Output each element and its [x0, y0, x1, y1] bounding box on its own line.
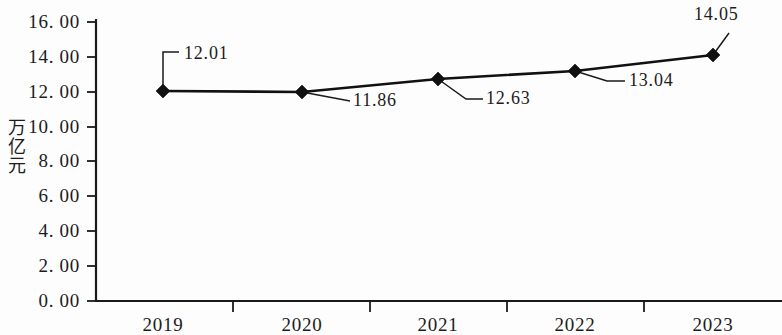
x-tick-label-2020: 2020	[262, 314, 342, 335]
y-tick-label-2: 2. 00	[16, 255, 80, 277]
data-point-2021	[431, 72, 445, 86]
data-label-2020: 11.86	[353, 90, 397, 111]
data-point-2022	[568, 64, 582, 78]
y-tick-marks	[87, 22, 96, 301]
x-tick-label-2019: 2019	[123, 314, 203, 335]
line-chart: 万亿元 16. 00 14. 00 12. 00 10. 00 8. 00 6.…	[0, 0, 782, 335]
y-tick-label-12: 12. 00	[16, 81, 80, 103]
x-tick-label-2023: 2023	[673, 314, 753, 335]
leader-2020	[302, 92, 350, 101]
y-tick-label-14: 14. 00	[16, 46, 80, 68]
leader-2021	[438, 79, 483, 99]
y-tick-label-16: 16. 00	[16, 11, 80, 33]
data-label-2022: 13.04	[629, 70, 674, 91]
leader-2019	[163, 52, 179, 91]
x-tick-label-2021: 2021	[398, 314, 478, 335]
leader-2022	[575, 71, 625, 81]
y-tick-label-4: 4. 00	[16, 220, 80, 242]
data-label-2023: 14.05	[694, 4, 739, 25]
data-point-2020	[295, 85, 309, 99]
chart-canvas	[0, 0, 782, 335]
y-tick-label-10: 10. 00	[16, 116, 80, 138]
y-tick-label-8: 8. 00	[16, 150, 80, 172]
y-tick-label-0: 0. 00	[16, 290, 80, 312]
data-point-2023	[706, 48, 720, 62]
x-tick-label-2022: 2022	[535, 314, 615, 335]
data-label-2021: 12.63	[486, 88, 531, 109]
data-point-2019	[156, 84, 170, 98]
data-label-2019: 12.01	[184, 43, 229, 64]
y-tick-label-6: 6. 00	[16, 185, 80, 207]
x-tick-marks	[233, 301, 644, 312]
